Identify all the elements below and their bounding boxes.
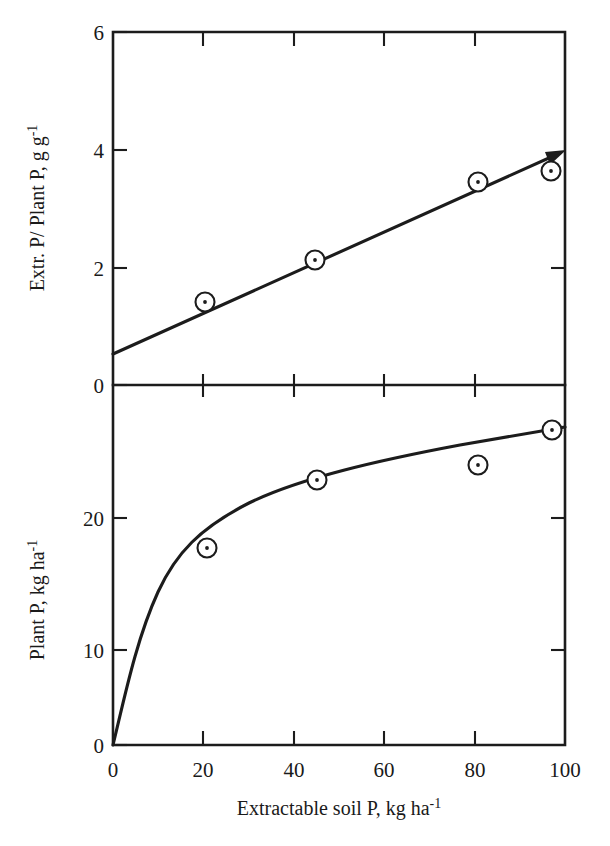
bottom-panel-ylabel: Plant P, kg ha-1 [25,540,49,661]
top-panel-ylabel-text: Extr. P/ Plant P, g g [26,136,49,291]
top-yticklabel-2: 2 [94,257,105,281]
top-yticklabel-4: 4 [94,139,105,163]
data-point [469,173,488,192]
top-panel-ylabel-group: Extr. P/ Plant P, g g-1 [25,125,49,292]
x-axis-tick-labels: 0 20 40 60 80 100 [108,758,581,782]
data-point [196,293,215,312]
data-point [542,162,561,181]
xticklabel-60: 60 [374,758,395,782]
bottom-panel-ylabel-group: Plant P, kg ha-1 [25,540,49,661]
bottom-panel-ylabel-text: Plant P, kg ha [26,551,49,660]
x-axis-label: Extractable soil P, kg ha-1 [237,796,441,820]
x-axis-label-text: Extractable soil P, kg ha [237,797,430,820]
xticklabel-0: 0 [108,758,119,782]
data-point [198,539,217,558]
xticklabel-40: 40 [284,758,305,782]
top-panel: 6 4 2 0 [25,21,566,398]
data-point [306,251,325,270]
bottom-yticklabel-20: 20 [83,507,104,531]
bottom-panel-fit-curve [113,427,565,745]
x-axis-label-superscript: -1 [430,796,442,811]
data-point [308,471,327,490]
bottom-yticklabel-0: 0 [94,734,105,758]
two-panel-chart: 6 4 2 0 [0,0,610,846]
bottom-panel: 20 10 0 [25,268,565,758]
xticklabel-20: 20 [193,758,214,782]
bottom-panel-data-points [198,421,562,558]
figure-container: 6 4 2 0 [0,0,610,846]
data-point [543,421,562,440]
data-point [469,456,488,475]
top-yticklabel-0: 0 [94,374,105,398]
top-yticklabel-6: 6 [94,21,105,45]
top-panel-ylabel-superscript: -1 [25,125,40,137]
bottom-yticklabel-10: 10 [83,639,104,663]
top-panel-frame [113,32,565,385]
top-panel-ylabel: Extr. P/ Plant P, g g-1 [25,125,49,292]
top-panel-fit-line [113,153,560,354]
xticklabel-100: 100 [549,758,581,782]
xticklabel-80: 80 [465,758,486,782]
bottom-panel-ylabel-superscript: -1 [25,540,40,552]
